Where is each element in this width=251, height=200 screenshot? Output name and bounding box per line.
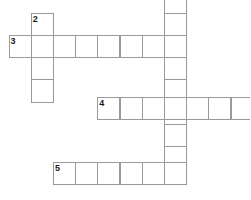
crossword-cell[interactable] [120,35,143,58]
crossword-cell[interactable] [164,162,187,185]
crossword-cell[interactable] [75,35,98,58]
crossword-cell[interactable] [231,97,251,120]
crossword-cell[interactable] [208,97,231,120]
crossword-cell[interactable] [164,124,187,147]
crossword-cell[interactable] [53,35,76,58]
cell-number-5: 5 [55,163,60,173]
crossword-cell-start-1[interactable]: 1 [164,0,187,14]
cell-number-4: 4 [99,98,104,108]
crossword-cell[interactable] [164,35,187,58]
crossword-cell[interactable] [120,162,143,185]
crossword-cell[interactable] [120,97,143,120]
crossword-cell[interactable] [31,35,54,58]
crossword-cell[interactable] [142,162,165,185]
cell-number-1: 1 [166,0,171,2]
cell-number-3: 3 [11,36,16,46]
crossword-cell[interactable] [164,97,187,120]
crossword-cell[interactable] [97,35,120,58]
crossword-cell-start-2[interactable]: 2 [31,13,54,36]
crossword-cell-start-5[interactable]: 5 [53,162,76,185]
crossword-cell[interactable] [97,162,120,185]
cell-number-2: 2 [33,14,38,24]
crossword-puzzle: 12345 [0,0,250,200]
crossword-cell[interactable] [142,97,165,120]
crossword-cell[interactable] [31,57,54,80]
crossword-cell[interactable] [186,97,209,120]
crossword-cell[interactable] [75,162,98,185]
crossword-cell[interactable] [142,35,165,58]
crossword-cell[interactable] [31,79,54,102]
crossword-cell-start-4[interactable]: 4 [97,97,120,120]
crossword-cell[interactable] [164,57,187,80]
crossword-cell-start-3[interactable]: 3 [9,35,32,58]
crossword-cell[interactable] [164,13,187,36]
